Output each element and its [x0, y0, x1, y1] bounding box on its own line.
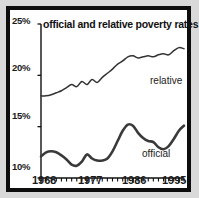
- y-axis-tick-label-10: 10%: [12, 161, 30, 172]
- chart-canvas: [10, 10, 187, 188]
- series-label-official: official: [142, 148, 170, 159]
- y-axis-tick-label-15: 15%: [12, 110, 30, 121]
- x-axis-tick-label-1995: 1995: [162, 174, 186, 186]
- x-axis-tick-label-1986: 1986: [122, 174, 146, 186]
- chart-plot-area: official and relative poverty rates 25% …: [10, 10, 187, 188]
- x-axis-tick-label-1977: 1977: [78, 174, 102, 186]
- y-axis-tick-label-20: 20%: [12, 62, 30, 73]
- chart-axes: [38, 24, 185, 183]
- y-axis-tick-label-25: 25%: [12, 15, 30, 26]
- x-axis-tick-label-1968: 1968: [32, 174, 56, 186]
- chart-frame: official and relative poverty rates 25% …: [6, 6, 191, 192]
- series-line-relative: [41, 48, 184, 96]
- chart-title: official and relative poverty rates: [43, 18, 197, 30]
- series-line-official: [41, 124, 184, 166]
- series-label-relative: relative: [150, 75, 182, 86]
